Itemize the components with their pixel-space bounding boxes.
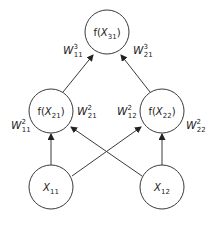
weight-w3-21: W321	[133, 43, 153, 59]
weight-w2-11: W211	[11, 118, 31, 134]
edge-x22-to-x31	[121, 55, 150, 92]
weight-w3-11: W311	[63, 43, 83, 59]
neural-network-diagram: f(X31) f(X21) f(X22) X11 X12 W311 W321 W…	[0, 0, 215, 227]
node-f-x31: f(X31)	[85, 10, 129, 54]
node-f-x21: f(X21)	[29, 89, 73, 133]
weight-w2-21: W221	[77, 104, 97, 120]
node-x12: X12	[140, 165, 184, 209]
node-x11: X11	[29, 165, 73, 209]
weight-w2-12: W212	[117, 104, 137, 120]
edge-x21-to-x31	[63, 55, 93, 92]
weight-w2-22: W222	[186, 118, 206, 134]
node-f-x22: f(X22)	[140, 89, 184, 133]
